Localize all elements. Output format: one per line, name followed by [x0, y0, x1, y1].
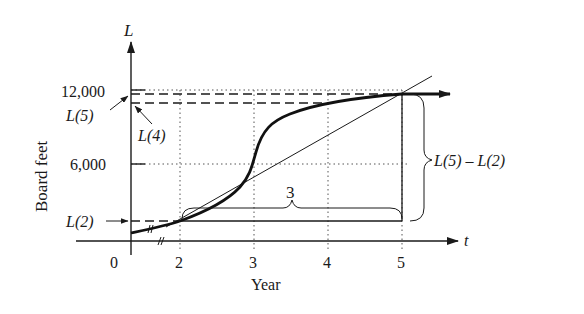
x-axis-title: Year: [251, 276, 281, 293]
grid-lines: [131, 90, 410, 252]
reference-dashes: [131, 94, 400, 221]
rise-label: L(5) – L(2): [433, 152, 505, 170]
run-label: 3: [286, 183, 295, 202]
tick-label-x4: 4: [323, 254, 331, 271]
secant-line: [166, 76, 432, 227]
tick-label-12000: 12,000: [61, 83, 105, 100]
label-L4: L(4): [137, 127, 166, 145]
tick-label-x3: 3: [249, 254, 257, 271]
x-symbol: t: [464, 232, 469, 249]
y-symbol: L: [123, 21, 133, 40]
tick-label-6000: 6,000: [70, 156, 106, 173]
label-L2: L(2): [65, 213, 94, 231]
tick-label-x5: 5: [397, 254, 405, 271]
label-L5: L(5): [65, 107, 94, 125]
rise-brace: [410, 94, 432, 221]
arrow-L5: [110, 96, 128, 110]
y-axis-title: Board feet: [32, 140, 51, 212]
run-brace: [182, 200, 402, 219]
tick-label-x0: 0: [110, 254, 118, 271]
arrow-L4: [135, 106, 152, 124]
tick-label-x2: 2: [175, 254, 183, 271]
growth-chart: L t 12,000 6,000 L(5) L(4) L(2) 0 2 3 4 …: [0, 0, 584, 314]
